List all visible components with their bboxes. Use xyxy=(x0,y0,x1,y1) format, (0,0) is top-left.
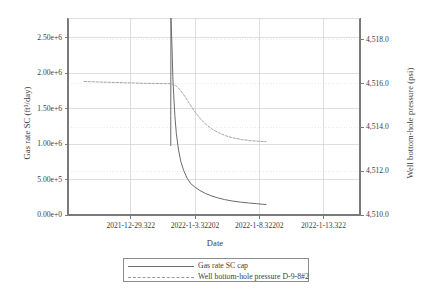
legend-label-pressure: Well bottom-hole pressure D-9-8#2 xyxy=(194,272,309,281)
y-axis-left-tick-label: 5.00e+5 xyxy=(16,175,62,184)
y-axis-right-tick-label: 4,514.0 xyxy=(366,122,412,131)
legend-entry-pressure: Well bottom-hole pressure D-9-8#2 xyxy=(124,271,310,282)
data-series xyxy=(84,18,266,205)
y-axis-right-tick-label: 4,518.0 xyxy=(366,35,412,44)
minor-gridlines xyxy=(68,40,360,171)
chart-figure: Gas rate SC (ft³/day) Well bottom-hole p… xyxy=(0,0,433,291)
series-line xyxy=(171,18,266,205)
y-axis-right-tick-label: 4,510.0 xyxy=(366,210,412,219)
axis-ticks xyxy=(65,38,364,219)
y-axis-left-tick-label: 0.00e+0 xyxy=(16,210,62,219)
y-axis-left-tick-label: 2.50e+6 xyxy=(16,33,62,42)
y-axis-left-tick-label: 1.50e+6 xyxy=(16,104,62,113)
y-axis-right-tick-label: 4,512.0 xyxy=(366,166,412,175)
y-axis-left-tick-label: 2.00e+6 xyxy=(16,68,62,77)
legend-line-sample-solid xyxy=(128,261,194,271)
plot-frame xyxy=(68,18,360,215)
y-axis-left-tick-label: 1.00e+6 xyxy=(16,139,62,148)
x-axis-title: Date xyxy=(160,238,270,248)
legend-line-sample-dashed xyxy=(128,272,194,282)
legend-label-gas-rate: Gas rate SC cap xyxy=(194,261,248,270)
legend-entry-gas-rate: Gas rate SC cap xyxy=(124,260,310,271)
x-axis-tick-label: 2022-1-13.322 xyxy=(279,221,369,230)
gridlines xyxy=(68,18,360,215)
y-axis-right-tick-label: 4,516.0 xyxy=(366,79,412,88)
chart-legend: Gas rate SC cap Well bottom-hole pressur… xyxy=(123,258,309,282)
